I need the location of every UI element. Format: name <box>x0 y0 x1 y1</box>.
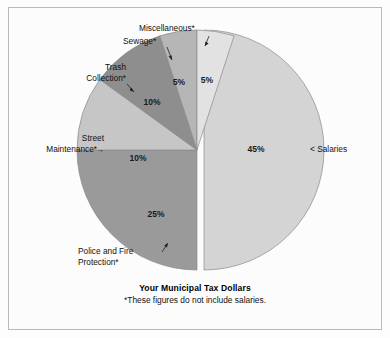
callout-salaries: < Salaries <box>310 144 347 155</box>
pie-value-street-maintenance: 10% <box>129 153 146 163</box>
callout-street-label: Maintenance* <box>46 144 97 154</box>
callout-police-line-2: Protection* <box>78 257 133 268</box>
pie-value-police-fire: 25% <box>147 209 164 219</box>
pie-value-salaries: 45% <box>247 144 264 154</box>
callout-trash-line-2: Collection* <box>46 73 126 84</box>
callout-miscellaneous: Miscellaneous* <box>139 23 195 34</box>
pie-value-miscellaneous: 5% <box>201 75 214 85</box>
callout-sewage: Sewage* <box>123 36 156 47</box>
callout-trash-collection: Trash Collection* <box>46 62 126 83</box>
chart-footnote: *These figures do not include salaries. <box>0 295 390 305</box>
caption-block: Your Municipal Tax Dollars *These figure… <box>0 283 390 305</box>
callout-trash-line-1: Trash <box>46 62 126 73</box>
callout-police-line-1: Police and Fire <box>78 246 133 257</box>
callout-street-maintenance: Street Maintenance*→ <box>12 133 104 155</box>
arrow-right-icon: → <box>97 146 104 153</box>
chart-title: Your Municipal Tax Dollars <box>0 283 390 293</box>
callout-street-line-1: Street <box>12 133 104 144</box>
pie-chart-figure: 45% 25% 10% 10% 5% 5% < Salaries Miscell… <box>0 0 390 338</box>
callout-street-line-2: Maintenance*→ <box>12 144 104 156</box>
callout-police-fire: Police and Fire Protection* <box>78 246 133 267</box>
pie-value-trash-collection: 10% <box>143 97 160 107</box>
pie-value-sewage: 5% <box>173 77 186 87</box>
